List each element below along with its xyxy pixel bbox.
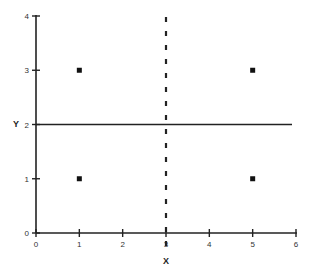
data-point-marker bbox=[77, 68, 82, 73]
x-tick-label: 1 bbox=[77, 240, 82, 249]
y-tick-label: 2 bbox=[25, 121, 30, 130]
data-point-marker bbox=[250, 176, 255, 181]
data-point-marker bbox=[250, 68, 255, 73]
x-tick-label: 4 bbox=[207, 240, 212, 249]
y-axis-label: Y bbox=[13, 119, 19, 129]
scatter-chart: 0123456 01234 X Y bbox=[0, 0, 316, 276]
data-point-marker bbox=[77, 176, 82, 181]
y-tick-label: 1 bbox=[25, 175, 30, 184]
x-tick-label: 2 bbox=[120, 240, 125, 249]
x-tick-label: 6 bbox=[294, 240, 299, 249]
x-axis-label: X bbox=[163, 256, 169, 266]
x-tick-label: 0 bbox=[34, 240, 39, 249]
y-tick-label: 3 bbox=[25, 66, 30, 75]
y-tick-label: 4 bbox=[25, 12, 30, 21]
x-tick-label: 5 bbox=[250, 240, 255, 249]
y-tick-label: 0 bbox=[25, 229, 30, 238]
reference-lines bbox=[36, 17, 292, 251]
